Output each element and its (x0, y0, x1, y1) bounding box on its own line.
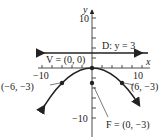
vertex-point (90, 66, 94, 70)
vertex-label: V = (0, 0) (46, 54, 85, 66)
y-tick-10: 10 (79, 13, 89, 24)
point-left (60, 81, 64, 85)
focus-label: F = (0, −3) (106, 119, 150, 131)
x-tick-10: 10 (133, 70, 143, 81)
y-axis (92, 10, 96, 137)
point-left-label: (−6, −3) (1, 81, 34, 93)
x-axis-label: x (145, 56, 151, 67)
directrix-label: D: y = 3 (102, 40, 135, 51)
x-tick-neg10: −10 (33, 70, 49, 81)
point-right (120, 81, 124, 85)
parabola-graph: y x 10 −10 −10 10 D: y = 3 V = (0, 0) (−… (0, 0, 165, 137)
focus-point (90, 81, 94, 85)
y-tick-neg10: −10 (72, 113, 88, 124)
point-right-label: (6, −3) (131, 81, 158, 93)
